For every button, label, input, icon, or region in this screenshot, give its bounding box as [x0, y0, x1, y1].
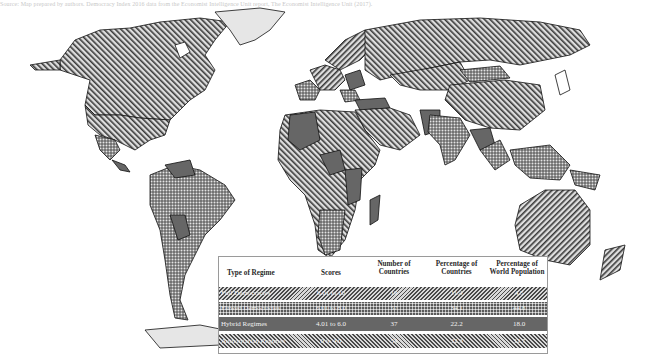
regime-summary-table: Type of Regime Scores Number of Countrie… [218, 256, 548, 354]
southeast-asia [510, 145, 600, 190]
cell-pct-countries: 34.1 [419, 302, 494, 315]
japan [555, 70, 570, 95]
cell-scores: 6.01 to 8.0 [291, 302, 371, 315]
cell-pct-population: 32.7 [484, 334, 554, 348]
antarctica-fragment [145, 325, 225, 348]
cell-countries: 19 [369, 287, 419, 300]
header-pct-pop-l2: World Population [481, 268, 553, 276]
africa [278, 110, 380, 258]
table-row-full-democracies: Full Democracies 8.01 to 10 19 11.4 4.5 [219, 287, 547, 300]
header-countries-l2: Countries [367, 268, 421, 276]
cell-pct-countries: 32.3 [419, 334, 494, 348]
cell-pct-population: 18.0 [484, 317, 554, 331]
cell-pct-countries: 22.2 [419, 317, 494, 331]
table-row-hybrid-regimes: Hybrid Regimes 4.01 to 6.0 37 22.2 18.0 [219, 317, 547, 331]
new-zealand [600, 245, 625, 280]
header-countries-l1: Number of [367, 260, 421, 268]
cell-scores: 0 to 4.0 [291, 334, 371, 348]
cell-countries: 54 [369, 334, 419, 348]
cell-scores: 8.01 to 10 [291, 287, 371, 300]
header-scores: Scores [301, 269, 361, 277]
cell-scores: 4.01 to 6.0 [291, 317, 371, 331]
north-america [30, 18, 230, 172]
table-header: Type of Regime Scores Number of Countrie… [219, 257, 547, 287]
header-type: Type of Regime [227, 269, 307, 277]
cell-countries: 57 [369, 302, 419, 315]
australia [515, 190, 590, 265]
cell-pct-population: 44.8 [484, 302, 554, 315]
cell-countries: 37 [369, 317, 419, 331]
table-row-authoritarian-regimes: Authoritarian Regimes 0 to 4.0 54 32.3 3… [219, 334, 547, 348]
table-row-flawed-democracies: Flawed Democracies 6.01 to 8.0 57 34.1 4… [219, 302, 547, 315]
header-pct-pop-l1: Percentage of [481, 260, 553, 268]
cell-pct-population: 4.5 [484, 287, 554, 300]
mongolia [460, 66, 510, 82]
cell-pct-countries: 11.4 [419, 287, 494, 300]
